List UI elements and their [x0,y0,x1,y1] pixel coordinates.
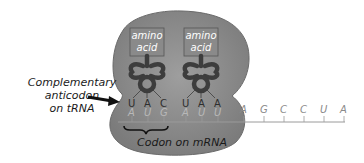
mrna-base: G [160,107,168,118]
amino-acid-label-2b: acid [191,42,212,53]
mrna-base: U [144,107,152,118]
translation-diagram: amino acid amino acid U A C U A A [0,0,364,163]
mrna-base: C [300,104,307,115]
amino-acid-box-2: amino acid [184,28,218,56]
mrna-base: A [181,107,189,118]
mrna-base: C [280,104,287,115]
codon-label: Codon on mRNA [137,136,227,149]
mrna-base: U [198,107,206,118]
mrna-base: U [214,107,222,118]
mrna-base: A [239,104,247,115]
mrna-base: A [127,107,135,118]
mrna-base: G [260,104,268,115]
mrna-base: U [320,104,328,115]
anticodon-label-line1: Complementary [28,76,117,89]
mrna-base: A [339,104,347,115]
anticodon-label-line2: anticodon [45,89,100,102]
amino-acid-label-2a: amino [185,30,216,41]
anticodon-label-line3: on tRNA [50,102,95,115]
amino-acid-box-1: amino acid [130,28,164,56]
amino-acid-label-1b: acid [137,42,158,53]
amino-acid-label-1a: amino [131,30,162,41]
